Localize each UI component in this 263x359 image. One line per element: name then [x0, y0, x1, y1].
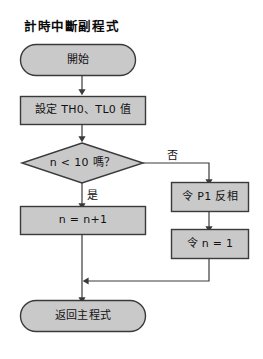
edge-label-yes: 是	[87, 186, 98, 202]
node-reset-n-shape	[172, 230, 249, 259]
edge-label-no: 否	[167, 146, 178, 162]
node-invert-p1-shape	[172, 183, 249, 212]
flowchart-graphics	[0, 0, 263, 359]
node-start-shape	[21, 45, 136, 76]
node-increment-n-shape	[21, 207, 146, 235]
flowchart-canvas: 計時中斷副程式 開始 設定 TH	[0, 0, 263, 359]
connector-resetn-to-merge	[86, 258, 209, 281]
node-decision-shape	[22, 143, 143, 183]
connector-decision-no-to-invertp1	[143, 163, 209, 182]
node-set-timer-shape	[21, 97, 146, 125]
node-return-shape	[21, 301, 146, 332]
